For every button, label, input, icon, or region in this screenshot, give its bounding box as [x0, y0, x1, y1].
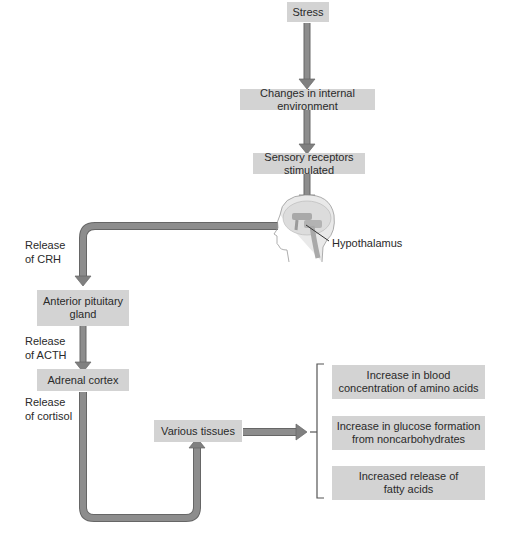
edge-label-cortisol-line1: Release — [25, 395, 72, 409]
effect-glucose-line2: from noncarbohydrates — [352, 433, 465, 446]
node-stress: Stress — [287, 2, 329, 22]
node-receptors-label: Sensory receptors stimulated — [253, 151, 365, 177]
node-various-tissues: Various tissues — [154, 420, 242, 442]
node-pituitary-line1: Anterior pituitary — [43, 295, 123, 308]
edge-label-acth: Release of ACTH — [25, 334, 67, 362]
arrow-internal-to-receptors — [299, 110, 315, 154]
node-internal-label: Changes in internal environment — [240, 87, 375, 113]
edge-label-crh-line1: Release — [25, 238, 65, 252]
hypothalamus-label: Hypothalamus — [332, 236, 402, 250]
effect-fatty-acids: Increased release of fatty acids — [332, 466, 485, 500]
edge-label-acth-line2: of ACTH — [25, 348, 67, 362]
arrow-tissues-to-effects — [243, 424, 307, 440]
effect-glucose-formation: Increase in glucose formation from nonca… — [332, 416, 485, 450]
arrow-hypothalamus-to-pituitary — [75, 226, 278, 286]
arrow-stress-to-internal — [299, 23, 315, 89]
arrow-pituitary-to-adrenal — [75, 326, 91, 372]
connectors-layer — [0, 0, 508, 543]
effect-amino-acids: Increase in blood concentration of amino… — [332, 365, 485, 399]
edge-label-cortisol: Release of cortisol — [25, 395, 72, 423]
node-pituitary-line2: gland — [70, 308, 97, 321]
head-brain-icon — [274, 195, 334, 262]
node-anterior-pituitary: Anterior pituitary gland — [37, 290, 129, 326]
effects-bracket — [310, 364, 324, 498]
effect-fatty-line1: Increased release of — [359, 470, 459, 483]
arrow-adrenal-to-tissues — [83, 392, 205, 518]
node-sensory-receptors: Sensory receptors stimulated — [253, 153, 365, 174]
effect-amino-line1: Increase in blood — [367, 369, 451, 382]
effect-glucose-line1: Increase in glucose formation — [337, 420, 481, 433]
node-internal-environment: Changes in internal environment — [240, 89, 375, 110]
edge-label-cortisol-line2: of cortisol — [25, 409, 72, 423]
edge-label-acth-line1: Release — [25, 334, 67, 348]
effect-fatty-line2: fatty acids — [384, 483, 434, 496]
node-tissues-label: Various tissues — [161, 425, 235, 438]
edge-label-crh-line2: of CRH — [25, 252, 65, 266]
node-adrenal-cortex: Adrenal cortex — [37, 369, 129, 391]
node-stress-label: Stress — [292, 6, 323, 19]
effect-amino-line2: concentration of amino acids — [338, 382, 478, 395]
edge-label-crh: Release of CRH — [25, 238, 65, 266]
node-adrenal-label: Adrenal cortex — [48, 374, 119, 387]
